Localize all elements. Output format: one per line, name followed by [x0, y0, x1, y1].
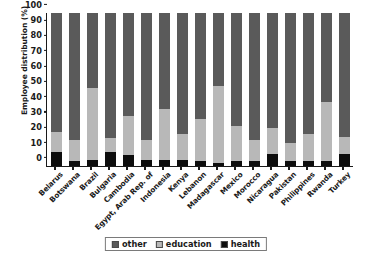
y-axis-tick-label: 100 [25, 1, 44, 9]
bar-column [123, 13, 134, 166]
y-axis-tick: 30 [31, 108, 47, 116]
bar-segment-education [339, 137, 350, 154]
bar-column [87, 13, 98, 166]
bar-segment-health [123, 155, 134, 166]
bar-segment-other [339, 13, 350, 137]
bar-segment-other [303, 13, 314, 134]
bar-segment-education [51, 132, 62, 152]
bar-segment-education [159, 109, 170, 159]
bar-column [231, 13, 242, 166]
bar-group [47, 13, 353, 166]
bar-segment-education [177, 134, 188, 160]
bar-column [141, 13, 152, 166]
bar-segment-education [267, 128, 278, 154]
y-axis-tick: 80 [31, 31, 47, 39]
bar-segment-other [231, 13, 242, 126]
bar-segment-health [105, 152, 116, 166]
bar-segment-other [123, 13, 134, 116]
bar-segment-education [303, 134, 314, 162]
bar-column [69, 13, 80, 166]
y-axis-tick-label: 20 [31, 123, 44, 131]
bar-segment-other [105, 13, 116, 138]
y-axis-tick-label: 30 [31, 108, 44, 116]
bar-segment-other [159, 13, 170, 109]
bar-column [249, 13, 260, 166]
y-axis-tick: 100 [25, 1, 47, 9]
y-axis-tick-label: 70 [31, 47, 44, 55]
legend-label: education [166, 240, 212, 248]
y-axis-tick: 70 [31, 47, 47, 55]
y-axis-tick: 10 [31, 138, 47, 146]
bar-column [285, 13, 296, 166]
legend-entry: health [221, 240, 260, 248]
plot-area: 0102030405060708090100 [46, 13, 353, 167]
legend: othereducationhealth [105, 237, 267, 251]
y-axis-title: Employee distribution (%) [20, 0, 29, 141]
bar-segment-health [339, 154, 350, 166]
bar-segment-education [213, 86, 224, 163]
y-axis-tick: 50 [31, 77, 47, 85]
bar-segment-other [51, 13, 62, 132]
y-axis-tick-label: 50 [31, 77, 44, 85]
bar-segment-education [141, 140, 152, 160]
bar-segment-education [105, 138, 116, 152]
bar-segment-other [267, 13, 278, 128]
y-axis-tick: 0 [36, 154, 47, 162]
bar-segment-education [231, 126, 242, 161]
bar-segment-other [249, 13, 260, 140]
legend-label: other [122, 240, 147, 248]
bar-column [105, 13, 116, 166]
y-axis-tick: 60 [31, 62, 47, 70]
y-axis-tick-mark [44, 4, 47, 5]
y-axis-tick-label: 60 [31, 62, 44, 70]
bar-segment-other [321, 13, 332, 102]
bar-segment-other [87, 13, 98, 88]
bar-segment-education [249, 140, 260, 161]
bar-segment-education [321, 102, 332, 162]
bar-segment-other [195, 13, 206, 119]
y-axis-tick-label: 80 [31, 31, 44, 39]
bar-column [267, 13, 278, 166]
bar-column [51, 13, 62, 166]
y-axis-tick: 40 [31, 93, 47, 101]
bar-segment-other [285, 13, 296, 143]
y-axis-tick: 20 [31, 123, 47, 131]
legend-label: health [231, 240, 260, 248]
bar-column [213, 13, 224, 166]
bar-column [321, 13, 332, 166]
stacked-bar-chart: Employee distribution (%) 01020304050607… [0, 0, 372, 263]
legend-swatch [221, 241, 228, 248]
bar-column [339, 13, 350, 166]
bar-column [177, 13, 188, 166]
bar-segment-education [195, 119, 206, 162]
legend-entry: other [112, 240, 147, 248]
y-axis-tick-label: 40 [31, 93, 44, 101]
bar-segment-education [87, 88, 98, 160]
bar-segment-education [285, 143, 296, 161]
bar-segment-health [267, 154, 278, 166]
legend-swatch [156, 241, 163, 248]
y-axis-tick-label: 10 [31, 138, 44, 146]
y-axis-tick-label: 0 [36, 154, 44, 162]
legend-swatch [112, 241, 119, 248]
bar-segment-education [69, 140, 80, 161]
bar-segment-health [51, 152, 62, 166]
legend-entry: education [156, 240, 212, 248]
bar-column [195, 13, 206, 166]
y-axis-tick-label: 90 [31, 16, 44, 24]
bar-column [303, 13, 314, 166]
bar-column [159, 13, 170, 166]
bar-segment-other [69, 13, 80, 140]
bar-segment-other [177, 13, 188, 134]
bar-segment-other [213, 13, 224, 86]
y-axis-tick: 90 [31, 16, 47, 24]
x-axis-labels: BelarusBotswanaBrazilBulgariaCambodiaEgy… [46, 170, 352, 228]
bar-segment-education [123, 116, 134, 156]
bar-segment-other [141, 13, 152, 140]
